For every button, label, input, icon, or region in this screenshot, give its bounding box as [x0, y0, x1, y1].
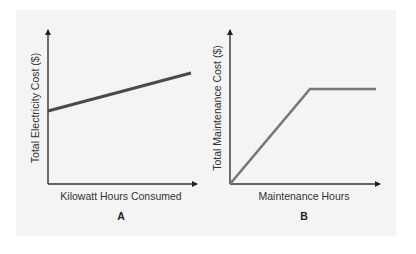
cost-line-b — [230, 89, 376, 184]
y-axis-label-b: Total Maintenance Cost ($) — [211, 45, 223, 170]
y-axis-label-a: Total Electricity Cost ($) — [29, 53, 41, 163]
x-axis-label-a: Kilowatt Hours Consumed — [60, 190, 182, 202]
figure: Total Electricity Cost ($) Kilowatt Hour… — [0, 0, 416, 254]
panel-letter-a: A — [117, 210, 125, 222]
cost-line-a — [48, 73, 191, 111]
panel-letter-b: B — [300, 210, 308, 222]
chart-a: Total Electricity Cost ($) Kilowatt Hour… — [29, 30, 197, 222]
chart-b: Total Maintenance Cost ($) Maintenance H… — [211, 30, 380, 222]
x-axis-label-b: Maintenance Hours — [258, 190, 349, 202]
